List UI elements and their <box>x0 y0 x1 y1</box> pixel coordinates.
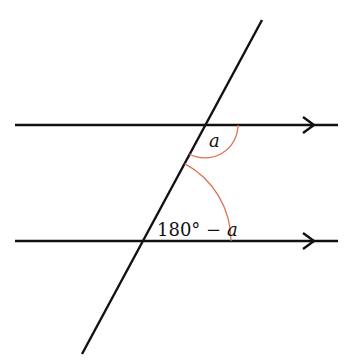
transversal-line <box>82 20 262 354</box>
angle-b-var: a <box>227 219 238 240</box>
angle-a-label: a <box>209 130 220 151</box>
angle-180-minus-a-label: 180° − a <box>157 219 238 240</box>
parallel-lines-diagram: a 180° − a <box>0 0 351 360</box>
angle-b-prefix: 180° − <box>157 219 227 240</box>
